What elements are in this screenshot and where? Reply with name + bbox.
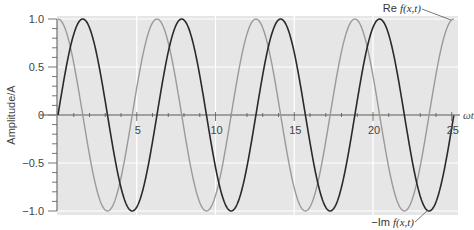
chart: 510152025−1.0−0.500.51.0 Amplitude/A ωt … [0,0,474,230]
annotation-re-prefix: Re [383,2,400,14]
x-tick-label: 25 [447,124,459,136]
x-tick-label: 5 [135,124,141,136]
x-axis-label: ωt [463,109,474,121]
x-tick-label: 10 [210,124,222,136]
annotation-re-expr: f(x,t) [400,2,421,15]
annotation-im-prefix: −Im [371,216,393,228]
y-tick-label: 1.0 [29,13,44,25]
y-tick-label: 0 [38,109,44,121]
x-tick-label: 20 [368,124,380,136]
annotation-im-expr: f(x,t) [393,216,414,229]
svg-text:Re f(x,t): Re f(x,t) [383,2,422,15]
y-tick-label: 0.5 [29,61,44,73]
svg-text:−Im f(x,t): −Im f(x,t) [371,216,414,229]
y-tick-label: −0.5 [22,157,44,169]
x-tick-label: 15 [289,124,301,136]
y-tick-label: −1.0 [22,205,44,217]
y-axis-label: Amplitude/A [5,85,17,145]
